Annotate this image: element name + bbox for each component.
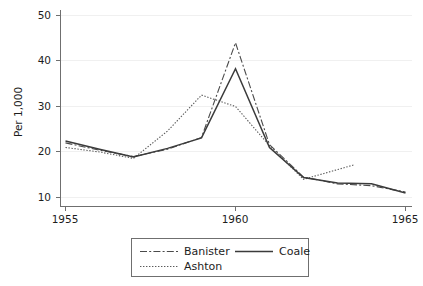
line-chart: 50 40 30 20 10 Per 1,000 1955 1960 1965 … [0, 0, 423, 286]
series-line-banister [66, 43, 406, 192]
legend-label-coale: Coale [279, 245, 310, 258]
y-tick-label-10: 10 [38, 191, 51, 203]
x-tick-label-1955: 1955 [52, 213, 79, 225]
y-tick-label-50: 50 [38, 9, 51, 21]
y-tick-label-20: 20 [38, 145, 51, 157]
chart-figure: 50 40 30 20 10 Per 1,000 1955 1960 1965 … [0, 0, 423, 286]
y-axis-title: Per 1,000 [12, 87, 24, 137]
series-group [66, 43, 406, 193]
y-tick-label-30: 30 [38, 100, 51, 112]
y-axis: 50 40 30 20 10 Per 1,000 [12, 9, 61, 206]
legend: Banister Coale Ashton [132, 239, 311, 277]
y-tick-label-40: 40 [38, 54, 51, 66]
series-line-coale [66, 69, 406, 193]
x-axis: 1955 1960 1965 [52, 206, 419, 225]
legend-label-ashton: Ashton [184, 260, 222, 273]
gridlines [60, 15, 412, 197]
x-tick-label-1965: 1965 [392, 213, 419, 225]
legend-label-banister: Banister [184, 245, 230, 258]
x-tick-label-1960: 1960 [222, 213, 249, 225]
series-line-ashton [66, 95, 355, 179]
